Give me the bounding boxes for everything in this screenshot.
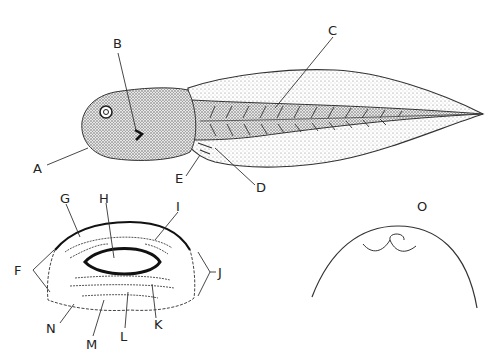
head-outline [312, 226, 477, 308]
label-g: G [60, 192, 70, 205]
eye-icon [100, 106, 112, 118]
label-a: A [33, 162, 42, 175]
diagram-drawing [0, 0, 494, 360]
label-c: C [328, 24, 337, 37]
label-k: K [154, 318, 163, 331]
figure-canvas: A B C D E F G H I J K L M N O [0, 0, 494, 360]
label-b: B [113, 37, 122, 50]
label-f: F [14, 264, 21, 277]
label-m: M [86, 338, 97, 351]
label-d: D [256, 181, 266, 194]
label-h: H [99, 192, 109, 205]
label-j: J [218, 266, 222, 279]
label-e: E [175, 172, 183, 185]
label-n: N [46, 322, 56, 335]
oral-disc [47, 222, 194, 311]
label-o: O [417, 200, 427, 213]
label-i: I [176, 200, 180, 213]
label-l: L [120, 330, 127, 343]
